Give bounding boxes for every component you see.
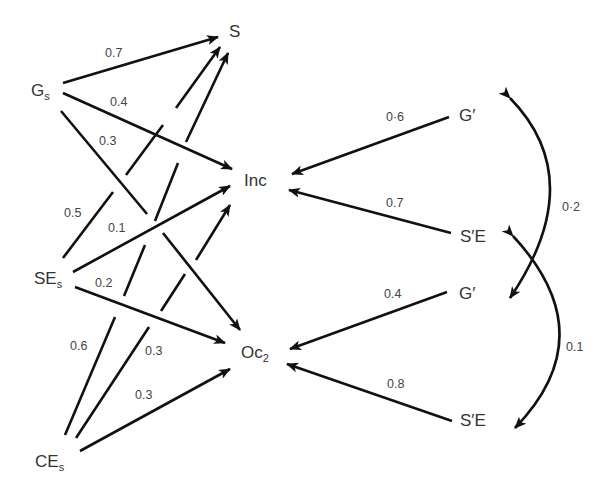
coef-ces-inc: 0.3 <box>145 345 162 358</box>
node-label: SE <box>34 269 57 288</box>
correlation-gprime-curve <box>510 98 550 298</box>
node-oc2: Oc2 <box>241 344 269 364</box>
path-seprime-top-to-inc <box>289 190 451 233</box>
node-label: S′E <box>460 411 486 430</box>
node-label: G <box>31 81 44 100</box>
node-label: G′ <box>459 284 475 303</box>
node-subscript: s <box>57 278 63 290</box>
node-ces: CEs <box>35 453 64 473</box>
coef-corr-seprime: 0.1 <box>566 341 583 354</box>
node-subscript: 2 <box>263 352 269 364</box>
node-label: CE <box>35 452 59 471</box>
coef-ses-oc2: 0.2 <box>95 277 112 290</box>
node-label: S′E <box>460 227 486 246</box>
coef-corr-gprime: 0·2 <box>562 201 580 214</box>
node-subscript: s <box>44 90 50 102</box>
node-ses: SEs <box>34 270 62 290</box>
coef-ces-s: 0.6 <box>70 340 87 353</box>
node-label: S <box>229 22 240 41</box>
path-seprime-bottom-to-oc2 <box>287 364 452 421</box>
correlation-seprime-curve <box>513 236 560 428</box>
coef-gprime-oc2: 0.4 <box>384 288 401 301</box>
node-inc: Inc <box>244 172 267 189</box>
node-gs: Gs <box>31 82 50 102</box>
path-ces-to-s <box>65 53 228 435</box>
coef-gs-oc2: 0.3 <box>99 135 116 148</box>
coef-seprime-oc2: 0.8 <box>387 378 404 391</box>
node-gprime-top: G′ <box>459 107 475 124</box>
path-gprime-bottom-to-oc2 <box>290 292 447 349</box>
node-label: Inc <box>244 171 267 190</box>
node-gprime-bottom: G′ <box>459 285 475 302</box>
path-diagram <box>0 0 616 496</box>
node-label: G′ <box>459 106 475 125</box>
path-ses-to-oc2 <box>75 287 225 343</box>
path-ces-to-inc <box>76 205 230 438</box>
path-ses-to-inc <box>73 186 230 272</box>
node-seprime-bottom: S′E <box>460 412 486 429</box>
node-s: S <box>229 23 240 40</box>
path-gs-to-inc <box>63 93 232 169</box>
coef-gs-s: 0.7 <box>105 47 122 60</box>
node-label: Oc <box>241 343 263 362</box>
coef-gs-inc: 0.4 <box>110 96 127 109</box>
node-seprime-top: S′E <box>460 228 486 245</box>
coef-gprime-inc: 0·6 <box>386 111 404 124</box>
coef-seprime-inc: 0.7 <box>386 197 403 210</box>
coef-ses-inc: 0.1 <box>108 222 125 235</box>
node-subscript: s <box>59 461 65 473</box>
coef-ces-oc2: 0.3 <box>135 389 152 402</box>
path-ces-to-oc2 <box>80 369 230 451</box>
coef-ses-s: 0.5 <box>64 207 81 220</box>
path-gprime-top-to-inc <box>292 117 449 174</box>
path-gs-to-s <box>63 37 218 83</box>
